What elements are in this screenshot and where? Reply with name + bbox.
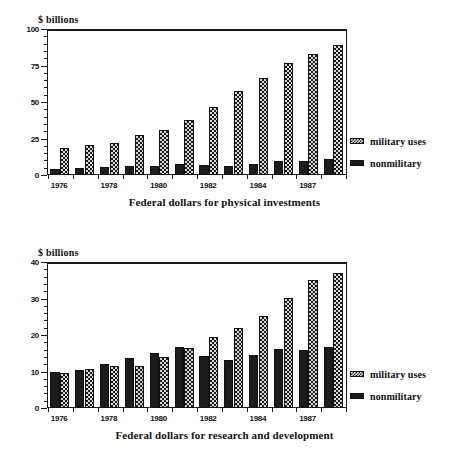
x-tick [296,408,297,412]
y-tick-minor [44,87,47,88]
bar-military [259,78,268,175]
chart-research-and-development: $ billions 010203040 1976197819801982198… [0,233,449,466]
y-tick-major [41,175,47,176]
y-tick-minor [44,153,47,154]
bar-nonmilitary [299,161,308,175]
bar-nonmilitary [199,165,208,175]
bar-group [123,30,148,175]
bar-nonmilitary [224,360,233,408]
x-tick [197,175,198,179]
y-tick-minor [44,51,47,52]
y-tick-label: 30 [31,294,39,303]
y-tick-minor [44,80,47,81]
x-tick [123,175,124,179]
military-swatch-icon [350,138,364,144]
x-tick [346,175,347,179]
x-tick-label: 1980 [150,414,167,423]
bar-military [308,280,317,408]
bar-group [296,263,321,408]
bar-group [247,263,272,408]
chart-caption: Federal dollars for physical investments [0,196,449,208]
bar-group [123,263,148,408]
bar-military [135,366,144,408]
nonmilitary-swatch-icon [350,160,364,166]
y-tick-major [41,139,47,140]
y-tick-major [41,299,47,300]
bar-military [60,148,69,175]
bar-group [73,30,98,175]
y-tick-minor [44,73,47,74]
bar-nonmilitary [50,372,59,408]
x-tick-label: 1984 [250,181,267,190]
bar-group [222,30,247,175]
x-tick [197,408,198,412]
x-tick [321,175,322,179]
bar-group [247,30,272,175]
bar-military [284,298,293,408]
y-tick-minor [44,117,47,118]
y-axis-unit-label: $ billions [38,14,79,25]
x-tick-label: 1987 [299,181,316,190]
x-tick [172,408,173,412]
legend-item-nonmilitary: nonmilitary [350,155,426,171]
y-axis: 0255075100 [37,29,47,175]
bar-group [197,263,222,408]
x-tick [247,408,248,412]
y-tick-minor [44,160,47,161]
legend-item-nonmilitary: nonmilitary [350,388,426,404]
y-tick-label: 100 [27,25,39,34]
x-tick [222,175,223,179]
bar-nonmilitary [224,166,233,175]
bar-military [85,369,94,408]
bar-nonmilitary [249,164,258,175]
bar-group [73,263,98,408]
bar-group [147,263,172,408]
y-tick-minor [44,401,47,402]
y-tick-minor [44,306,47,307]
y-tick-minor [44,284,47,285]
bar-nonmilitary [274,349,283,408]
bar-group [321,263,346,408]
bar-military [259,316,268,408]
y-tick-major [41,335,47,336]
chart-physical-investments: $ billions 0255075100 197619781980198219… [0,0,449,233]
y-tick-minor [44,357,47,358]
y-tick-major [41,66,47,67]
x-tick [98,408,99,412]
bar-nonmilitary [175,164,184,175]
y-tick-label: 50 [31,98,39,107]
bar-nonmilitary [175,347,184,408]
bar-group [272,263,297,408]
bar-group [48,263,73,408]
x-tick [98,175,99,179]
legend-item-military: military uses [350,366,426,382]
bar-group [272,30,297,175]
bar-nonmilitary [324,159,333,175]
x-tick-label: 1980 [150,181,167,190]
x-tick-label: 1976 [51,181,68,190]
legend: military uses nonmilitary [350,133,426,177]
y-tick-major [41,262,47,263]
bar-military [110,143,119,175]
bar-military [184,120,193,175]
bar-military [209,337,218,408]
chart-caption: Federal dollars for research and develop… [0,429,449,441]
y-tick-minor [44,58,47,59]
bars-layer [48,30,346,175]
x-tick [247,175,248,179]
nonmilitary-swatch-icon [350,393,364,399]
x-axis: 197619781980198219841987 [48,175,346,193]
bar-nonmilitary [125,358,134,408]
bar-group [98,30,123,175]
bar-military [333,273,342,408]
bar-nonmilitary [249,355,258,408]
x-tick [147,408,148,412]
y-tick-minor [44,320,47,321]
bar-military [234,91,243,175]
bar-military [110,366,119,408]
y-tick-major [41,102,47,103]
y-tick-label: 10 [31,367,39,376]
bar-group [48,30,73,175]
bar-nonmilitary [299,350,308,408]
y-tick-minor [44,124,47,125]
